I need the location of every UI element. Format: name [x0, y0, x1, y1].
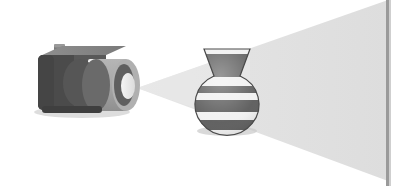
projector-lens-aperture — [121, 73, 135, 99]
projector-barrel-back — [82, 59, 110, 111]
projector-base — [42, 106, 102, 113]
illustration-canvas: Projector light cone with striped vase — [0, 0, 408, 186]
projection-screen-edge — [386, 0, 389, 186]
projector-beam-diagram — [0, 0, 408, 186]
projection-screen-edge-highlight — [389, 0, 391, 186]
projector-body-left — [38, 55, 54, 110]
